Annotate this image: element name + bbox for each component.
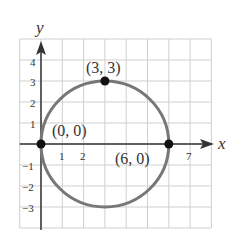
point-3-3 [100,77,109,86]
point-6-0 [164,140,173,149]
x-axis-label: x [217,134,226,153]
y-tick-3: 3 [30,76,36,88]
point-label-3-3: (3, 3) [86,59,121,77]
y-tick-2: 2 [30,97,36,109]
y-tick-neg3: −3 [22,202,34,214]
x-tick-1: 1 [59,150,65,162]
coordinate-plane: y x 1 2 7 4 3 2 1 −1 −2 −3 (3, 3) (0, 0)… [0,0,230,246]
y-tick-1: 1 [30,118,36,130]
y-tick-neg2: −2 [22,181,34,193]
x-tick-7: 7 [186,150,192,162]
point-0-0 [37,140,46,149]
y-axis-label: y [34,18,44,37]
x-tick-2: 2 [80,150,86,162]
point-label-6-0: (6, 0) [115,150,150,168]
y-tick-4: 4 [30,56,36,68]
y-tick-neg1: −1 [22,160,34,172]
point-label-0-0: (0, 0) [52,122,87,140]
